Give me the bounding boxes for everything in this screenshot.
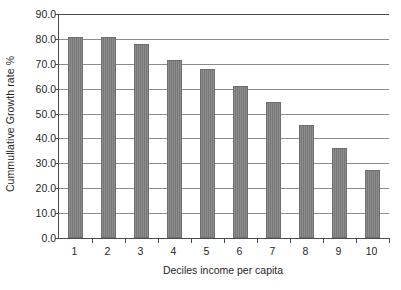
bar	[266, 102, 281, 238]
y-tick-mark	[55, 89, 59, 90]
x-tick-mark	[224, 238, 225, 243]
bar-chart-figure: Cummullative Growth rate % 0.010.020.030…	[0, 0, 401, 290]
x-tick-mark	[389, 238, 390, 243]
x-tick-mark	[257, 238, 258, 243]
x-axis-tick-labels: 12345678910	[58, 245, 388, 261]
x-tick-label: 3	[124, 245, 158, 257]
bar	[299, 125, 314, 238]
y-tick-mark	[55, 39, 59, 40]
bar	[68, 37, 83, 238]
y-tick-mark	[55, 238, 59, 239]
bar	[365, 170, 380, 238]
y-axis-title-label: Cummullative Growth rate %	[4, 56, 16, 192]
bar	[101, 37, 116, 238]
y-tick-label: 70.0	[18, 59, 56, 69]
x-tick-label: 7	[256, 245, 290, 257]
y-axis-title: Cummullative Growth rate %	[0, 0, 20, 248]
y-axis-tick-labels: 0.010.020.030.040.050.060.070.080.090.0	[18, 0, 56, 250]
y-tick-label: 10.0	[18, 208, 56, 218]
y-tick-mark	[55, 114, 59, 115]
y-tick-mark	[55, 163, 59, 164]
x-tick-mark	[92, 238, 93, 243]
y-tick-mark	[55, 138, 59, 139]
y-tick-mark	[55, 213, 59, 214]
x-tick-mark	[191, 238, 192, 243]
x-tick-mark	[125, 238, 126, 243]
x-tick-mark	[356, 238, 357, 243]
plot-area	[58, 14, 389, 239]
x-tick-label: 4	[157, 245, 191, 257]
x-tick-label: 1	[58, 245, 92, 257]
y-tick-label: 90.0	[18, 9, 56, 19]
bar	[167, 60, 182, 238]
x-tick-label: 9	[322, 245, 356, 257]
y-tick-label: 50.0	[18, 109, 56, 119]
x-tick-label: 6	[223, 245, 257, 257]
y-tick-label: 30.0	[18, 158, 56, 168]
bars-layer	[59, 14, 389, 238]
x-tick-label: 5	[190, 245, 224, 257]
x-tick-mark	[158, 238, 159, 243]
x-tick-label: 8	[289, 245, 323, 257]
x-tick-mark	[290, 238, 291, 243]
y-tick-label: 20.0	[18, 183, 56, 193]
y-tick-label: 40.0	[18, 133, 56, 143]
y-tick-label: 60.0	[18, 84, 56, 94]
bar	[233, 86, 248, 238]
y-tick-label: 0.0	[18, 233, 56, 243]
x-tick-mark	[323, 238, 324, 243]
x-tick-label: 10	[355, 245, 389, 257]
y-tick-label: 80.0	[18, 34, 56, 44]
bar	[134, 44, 149, 238]
y-tick-mark	[55, 14, 59, 15]
y-tick-mark	[55, 188, 59, 189]
bar	[200, 69, 215, 238]
bar	[332, 148, 347, 238]
x-axis-title: Deciles income per capita	[58, 264, 388, 276]
x-tick-label: 2	[91, 245, 125, 257]
y-tick-mark	[55, 64, 59, 65]
